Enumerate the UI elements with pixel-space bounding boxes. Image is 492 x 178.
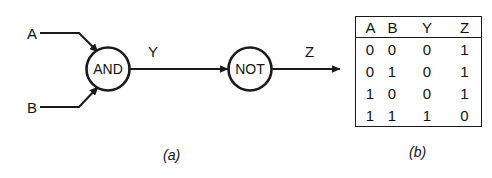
cell-b: 1 [388, 108, 397, 123]
cell-a: 1 [366, 86, 375, 101]
cell-ab: 0 0 [356, 38, 407, 61]
cell-z: 1 [448, 60, 482, 82]
table-row: 1 0 0 1 [356, 82, 482, 104]
cell-a: 0 [366, 42, 375, 57]
cell-ab: 1 1 [356, 104, 407, 127]
header-cell-z: Z [448, 17, 482, 38]
cell-ab: 1 0 [356, 82, 407, 104]
truth-table: A B Y Z 0 0 0 [355, 16, 482, 127]
cell-b: 0 [388, 86, 397, 101]
caption-b: (b) [409, 145, 426, 159]
figure-root: AND NOT A B Y Z (a) A B [0, 0, 492, 178]
input-a-label: A [27, 26, 37, 41]
cell-y: 0 [406, 38, 448, 61]
table-row: 1 1 1 0 [356, 104, 482, 127]
signal-y-label: Y [148, 44, 158, 59]
signal-z-label: Z [305, 44, 314, 59]
cell-a: 1 [366, 108, 375, 123]
cell-z: 1 [448, 38, 482, 61]
cell-y: 1 [406, 104, 448, 127]
not-gate-label: NOT [235, 61, 265, 77]
table-row: 0 1 0 1 [356, 60, 482, 82]
cell-z: 0 [448, 104, 482, 127]
cell-y: 0 [406, 60, 448, 82]
cell-z: 1 [448, 82, 482, 104]
header-cell-ab: A B [356, 17, 407, 38]
input-b-label: B [27, 100, 37, 115]
cell-b: 0 [388, 42, 397, 57]
caption-a: (a) [163, 148, 180, 162]
header-a: A [366, 20, 375, 35]
cell-a: 0 [366, 64, 375, 79]
truth-table-container: A B Y Z 0 0 0 [355, 16, 482, 127]
table-row: 0 0 0 1 [356, 38, 482, 61]
cell-ab: 0 1 [356, 60, 407, 82]
header-cell-y: Y [406, 17, 448, 38]
table-header-row: A B Y Z [356, 17, 482, 38]
header-b: B [388, 20, 397, 35]
and-gate-label: AND [93, 61, 123, 77]
input-b-wire [40, 87, 98, 107]
cell-y: 0 [406, 82, 448, 104]
cell-b: 1 [388, 64, 397, 79]
input-a-wire [40, 33, 98, 52]
